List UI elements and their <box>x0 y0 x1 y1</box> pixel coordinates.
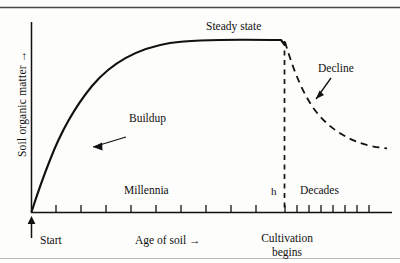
millennia-label: Millennia <box>124 185 169 197</box>
decline-label: Decline <box>318 63 354 75</box>
axis-break-symbol: h <box>271 186 277 197</box>
soil-organic-matter-figure <box>0 0 400 263</box>
cultivation-begins-label: Cultivation begins <box>248 232 326 259</box>
buildup-label: Buildup <box>129 113 166 125</box>
decline-curve <box>285 42 387 148</box>
x-axis-ticks-decades <box>285 205 369 212</box>
steady-state-label: Steady state <box>206 21 261 33</box>
y-axis-label: Soil organic matter → <box>17 29 29 179</box>
x-axis-label: Age of soil → <box>135 235 200 247</box>
steady-state-shoulder <box>271 40 284 44</box>
decline-annotation-arrow <box>316 78 331 99</box>
start-arrow-icon <box>28 216 36 238</box>
decades-label: Decades <box>300 185 339 197</box>
buildup-annotation-arrow <box>93 137 126 151</box>
start-label: Start <box>40 235 62 247</box>
x-axis-ticks-millennia <box>56 205 256 212</box>
